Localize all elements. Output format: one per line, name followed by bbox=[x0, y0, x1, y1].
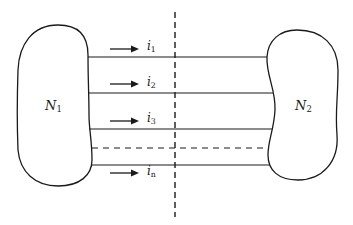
two-port-network-cut-diagram: N1 N2 i1 i2 i3 in bbox=[0, 0, 353, 225]
arrow-icon-i3 bbox=[110, 118, 139, 125]
arrow-icon-in bbox=[110, 170, 139, 177]
network-n2-label: N2 bbox=[295, 99, 312, 114]
current-label-i1: i1 bbox=[147, 40, 156, 54]
current-label-i2: i2 bbox=[147, 76, 156, 90]
current-label-i3: i3 bbox=[147, 112, 156, 126]
current-label-in: in bbox=[147, 165, 156, 179]
network-n1-label: N1 bbox=[45, 99, 62, 114]
arrow-icon-i2 bbox=[110, 81, 139, 88]
arrow-icon-i1 bbox=[110, 46, 139, 53]
